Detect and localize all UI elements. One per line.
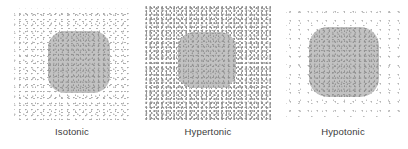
tonicity-figure: Isotonic Hypertonic Hypotonic — [0, 0, 408, 149]
cell-body-hypertonic — [178, 32, 236, 88]
panel-hypotonic: Hypotonic — [282, 0, 404, 149]
panel-caption-isotonic: Isotonic — [8, 126, 136, 137]
cytoplasm-dots-icon — [48, 31, 110, 93]
solution-field-hypertonic — [145, 6, 271, 120]
cell-body-hypotonic — [309, 27, 379, 97]
panel-caption-hypotonic: Hypotonic — [282, 126, 404, 137]
solution-field-isotonic — [14, 8, 130, 120]
cytoplasm-dots-icon — [309, 27, 379, 97]
panel-caption-hypertonic: Hypertonic — [142, 126, 274, 137]
panel-isotonic: Isotonic — [8, 0, 136, 149]
solution-field-hypotonic — [286, 8, 400, 118]
cell-body-isotonic — [48, 31, 110, 93]
cytoplasm-dots-icon — [178, 32, 236, 88]
panel-hypertonic: Hypertonic — [142, 0, 274, 149]
